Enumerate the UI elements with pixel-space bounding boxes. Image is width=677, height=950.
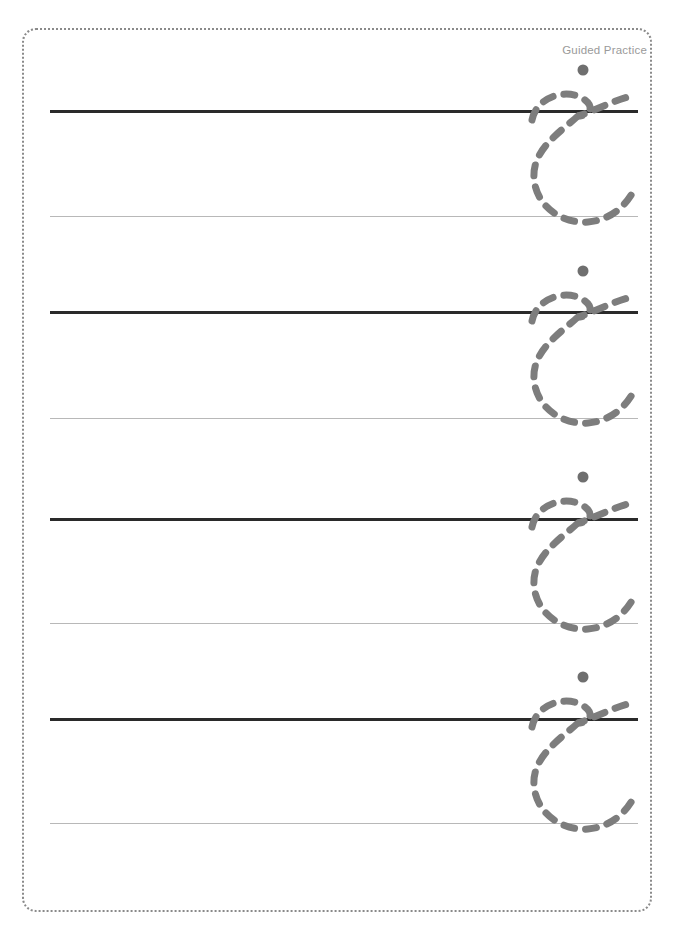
page-title: Guided Practice: [562, 44, 647, 56]
baseline-thin-row-1: [50, 216, 638, 217]
page-border: [22, 28, 652, 912]
baseline-thick-row-2: [50, 311, 638, 314]
baseline-thick-row-1: [50, 110, 638, 113]
baseline-thin-row-2: [50, 418, 638, 419]
worksheet-page: Guided Practice: [0, 0, 677, 950]
baseline-thick-row-3: [50, 518, 638, 521]
baseline-thick-row-4: [50, 718, 638, 721]
baseline-thin-row-4: [50, 823, 638, 824]
baseline-thin-row-3: [50, 623, 638, 624]
